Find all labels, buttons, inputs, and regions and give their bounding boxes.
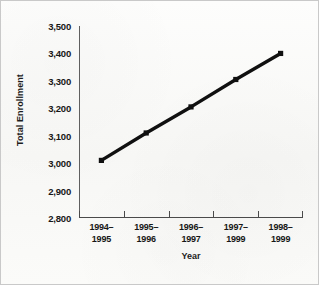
x-tick-label: 1997–1999 [224,222,248,245]
x-axis-title: Year [79,251,303,261]
x-tick-mark [213,211,214,218]
x-axis-tick-labels: 1994–19951995–19961996–19971997–19991998… [79,222,303,252]
x-tick-label: 1998–1999 [269,222,293,245]
y-tick-label: 3,000 [48,158,71,169]
y-axis-tick-labels: 2,8002,9003,0003,1003,2003,3003,4003,500 [27,26,75,218]
x-tick-label: 1994–1995 [89,222,113,245]
y-tick-label: 3,200 [48,103,71,114]
x-tick-mark [79,211,80,218]
y-tick-label: 3,400 [48,48,71,59]
x-tick-label: 1996–1997 [179,222,203,245]
data-point-marker [233,77,238,82]
x-tick-mark [258,211,259,218]
y-tick-label: 3,300 [48,75,71,86]
plot-area [79,26,303,218]
y-tick-label: 2,800 [48,213,71,224]
data-point-marker [188,104,193,109]
data-point-marker [144,130,149,135]
y-axis-title-text: Total Enrollment [15,74,25,146]
data-point-marker [278,51,283,56]
y-tick-label: 3,500 [48,21,71,32]
x-tick-mark [169,211,170,218]
x-tick-label: 1995–1996 [134,222,158,245]
x-tick-mark [302,211,303,218]
chart-figure: Total Enrollment 2,8002,9003,0003,1003,2… [0,0,319,285]
enrollment-line-series [79,26,303,218]
data-point-marker [99,158,104,163]
x-tick-mark [124,211,125,218]
y-tick-label: 3,100 [48,130,71,141]
y-tick-label: 2,900 [48,185,71,196]
